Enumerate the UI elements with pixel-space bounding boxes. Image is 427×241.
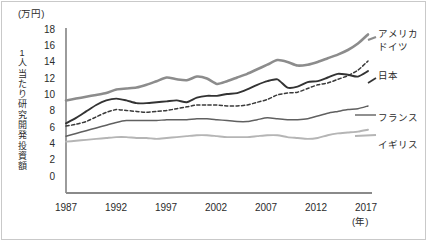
series-line-イギリス bbox=[66, 130, 368, 142]
legend-leader-japan bbox=[368, 78, 376, 83]
series-line-日本 bbox=[66, 71, 368, 123]
chart-plot-area bbox=[0, 0, 427, 241]
series-lines bbox=[66, 34, 368, 141]
series-line-ドイツ bbox=[66, 61, 368, 126]
legend-leader-uk bbox=[355, 135, 376, 136]
chart-figure: (万円) 1 人 当 た り 研 究 開 発 投 資 額 18 16 14 12… bbox=[0, 0, 427, 241]
series-line-アメリカ bbox=[66, 34, 368, 100]
legend-leader-america bbox=[368, 37, 376, 40]
